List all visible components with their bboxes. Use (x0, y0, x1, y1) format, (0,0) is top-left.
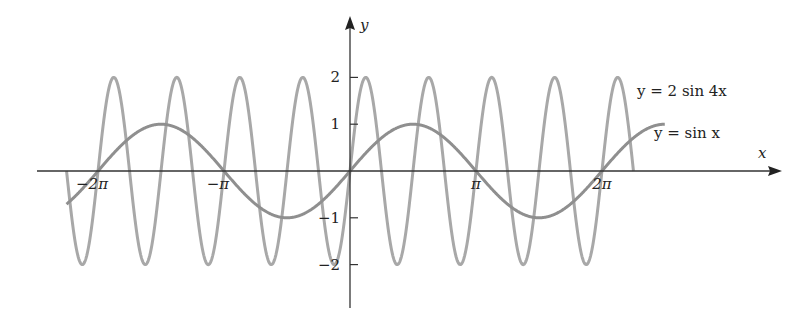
y-tick-label: −2 (318, 256, 340, 274)
chart-figure: −2π−ππ2π21−1−2 x y y = 2 sin 4x y = sin … (0, 0, 803, 314)
plot-area: −2π−ππ2π21−1−2 x y y = 2 sin 4x y = sin … (0, 0, 803, 314)
x-tick-label: π (470, 175, 482, 193)
y-tick-label: −1 (318, 209, 340, 227)
x-tick-label: −2π (76, 175, 109, 193)
x-tick-label: 2π (591, 175, 613, 193)
x-axis-label: x (758, 144, 767, 162)
x-axis-arrow-icon (768, 166, 782, 176)
y-tick-label: 1 (330, 115, 340, 133)
series-label-2sin4x: y = 2 sin 4x (636, 82, 727, 100)
y-tick-label: 2 (330, 68, 340, 86)
y-axis-label: y (359, 16, 369, 34)
series-label-sinx: y = sin x (653, 124, 721, 142)
y-axis-arrow-icon (345, 16, 355, 30)
x-tick-label: −π (207, 175, 231, 193)
